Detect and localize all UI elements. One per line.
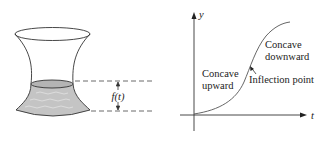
concave-down-label-line1: Concave	[265, 39, 302, 50]
vase-top-rim	[15, 28, 90, 41]
x-axis-arrow-icon	[300, 113, 307, 118]
y-axis-label: y	[198, 9, 204, 20]
y-axis-arrow-icon	[192, 12, 197, 19]
inflection-point-label: Inflection point	[249, 74, 314, 85]
height-label: f(t)	[112, 91, 125, 103]
water-fill	[16, 84, 90, 116]
diagram-canvas: f(t) y t Concave upward Concave downward…	[0, 0, 323, 141]
water-surface	[31, 80, 73, 88]
concave-up-label-line2: upward	[202, 80, 234, 91]
concave-up-label-line1: Concave	[202, 68, 239, 79]
vase-figure: f(t)	[15, 28, 152, 117]
x-axis-label: t	[311, 110, 315, 121]
graph: y t Concave upward Concave downward Infl…	[180, 9, 315, 131]
concave-down-label-line2: downward	[265, 51, 310, 62]
